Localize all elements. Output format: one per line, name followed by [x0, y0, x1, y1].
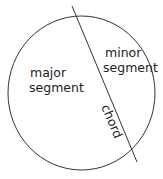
minor-segment-label-line1: minor [105, 45, 142, 60]
major-segment-label-line2: segment [29, 80, 84, 95]
minor-segment-label-line2: segment [103, 60, 158, 75]
major-segment-label-line1: major [30, 65, 67, 80]
chord-label: chord [98, 102, 126, 140]
circle-chord-diagram: major segment minor segment chord [0, 0, 163, 179]
